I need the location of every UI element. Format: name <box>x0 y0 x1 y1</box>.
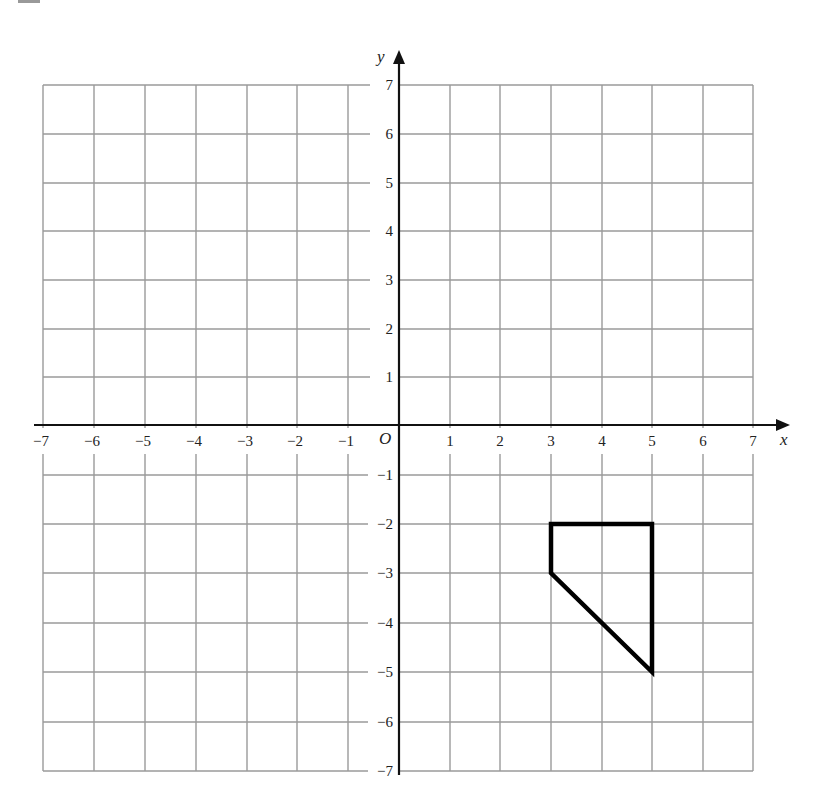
y-axis-arrow-icon <box>393 50 405 64</box>
coordinate-grid: x y O −7 −6 −5 −4 −3 −2 −1 1 2 3 4 5 6 7… <box>0 0 826 812</box>
y-tick: 2 <box>386 321 394 337</box>
y-tick: −5 <box>377 664 393 680</box>
x-axis-label: x <box>779 430 788 449</box>
x-tick: 3 <box>547 433 555 449</box>
x-tick: 5 <box>648 433 656 449</box>
y-tick: −6 <box>377 714 393 730</box>
y-tick: 6 <box>386 126 394 142</box>
x-tick: 7 <box>749 433 757 449</box>
x-tick: −2 <box>287 433 303 449</box>
label-backgrounds <box>30 76 786 780</box>
y-tick: 5 <box>386 175 394 191</box>
y-tick: 7 <box>386 77 394 93</box>
y-axis-label: y <box>375 47 385 66</box>
x-tick: 4 <box>598 433 606 449</box>
y-tick: −3 <box>377 565 393 581</box>
x-tick: −4 <box>186 433 202 449</box>
y-tick: 4 <box>386 223 394 239</box>
x-tick: 1 <box>446 433 454 449</box>
x-tick: −5 <box>135 433 151 449</box>
x-tick: −3 <box>237 433 253 449</box>
x-tick: −7 <box>33 433 49 449</box>
y-tick: −1 <box>377 467 393 483</box>
y-tick: −4 <box>377 615 393 631</box>
y-tick: 3 <box>386 272 394 288</box>
origin-label: O <box>379 429 391 448</box>
axes <box>34 60 780 775</box>
y-tick: −7 <box>377 763 393 779</box>
x-tick: −1 <box>338 433 354 449</box>
y-tick: 1 <box>386 369 394 385</box>
y-tick: −2 <box>377 516 393 532</box>
x-tick: 2 <box>496 433 504 449</box>
x-tick: −6 <box>84 433 100 449</box>
x-tick: 6 <box>699 433 707 449</box>
